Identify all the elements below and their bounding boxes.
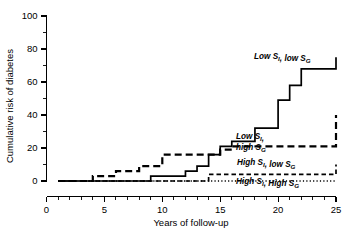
y-axis-ticklabels: 020406080100	[22, 10, 38, 186]
x-tick-label: 0	[44, 204, 49, 215]
x-axis-ticklabels: 0510152025	[44, 204, 341, 215]
series-annotations-group: Low SI, low SGLow SI,high SGHigh SI, low…	[236, 52, 311, 189]
x-tick-label: 10	[157, 204, 168, 215]
x-tick-label: 25	[331, 204, 342, 215]
label-high-si-low-sg: High SI, low SG	[237, 158, 296, 170]
y-tick-label: 20	[27, 142, 38, 153]
x-axis-title: Years of follow-up	[153, 217, 228, 228]
label-high-si-high-sg: High SI, High SG	[236, 177, 299, 189]
x-axis-ticks	[47, 197, 337, 203]
x-tick-label: 15	[215, 204, 226, 215]
y-tick-label: 40	[27, 109, 38, 120]
y-tick-label: 100	[22, 10, 38, 21]
x-tick-label: 5	[102, 204, 107, 215]
y-tick-label: 80	[27, 43, 38, 54]
figure-container: 020406080100 0510152025 Years of follow-…	[0, 0, 347, 242]
label-low-si-low-sg: Low SI, low SG	[254, 52, 311, 64]
x-tick-label: 20	[273, 204, 284, 215]
y-axis-ticks	[41, 16, 47, 181]
cumulative-risk-step-chart: 020406080100 0510152025 Years of follow-…	[0, 0, 347, 242]
label-low-si-high-sg-line2: high SG	[236, 143, 266, 153]
y-tick-label: 60	[27, 76, 38, 87]
y-axis-title: Cumulative risk of diabetes	[4, 49, 15, 163]
y-tick-label: 0	[32, 175, 37, 186]
